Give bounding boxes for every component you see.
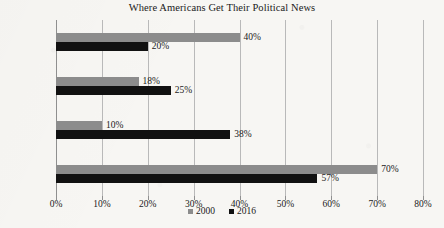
bar[interactable] (56, 86, 171, 95)
bar-value-label: 10% (106, 121, 123, 130)
legend-label: 2000 (196, 206, 215, 216)
legend-item[interactable]: 2016 (229, 206, 256, 216)
bar-group: Newspaper40%20% (56, 33, 423, 51)
bar-value-label: 20% (152, 42, 169, 51)
legend-swatch-icon (229, 209, 234, 214)
chart-title: Where Americans Get Their Political News (0, 2, 444, 13)
chart-legend: 20002016 (0, 206, 444, 216)
bar[interactable] (56, 174, 317, 183)
bar[interactable] (56, 33, 240, 42)
bar-value-label: 70% (381, 165, 398, 174)
bar-group: Internet10%38% (56, 121, 423, 139)
bar-value-label: 18% (143, 77, 160, 86)
bar-value-label: 40% (244, 33, 261, 42)
bar[interactable] (56, 130, 230, 139)
bar-value-label: 57% (321, 174, 338, 183)
legend-label: 2016 (237, 206, 256, 216)
bar[interactable] (56, 121, 102, 130)
legend-swatch-icon (188, 209, 193, 214)
bar-value-label: 38% (234, 130, 251, 139)
bar-group: Radio18%25% (56, 77, 423, 95)
bar-value-label: 25% (175, 86, 192, 95)
plot-area: Newspaper40%20%Radio18%25%Internet10%38%… (56, 20, 423, 196)
legend-item[interactable]: 2000 (188, 206, 215, 216)
bar-group: TV70%57% (56, 165, 423, 183)
bar[interactable] (56, 77, 139, 86)
gridline-80 (423, 20, 424, 196)
bar[interactable] (56, 42, 148, 51)
